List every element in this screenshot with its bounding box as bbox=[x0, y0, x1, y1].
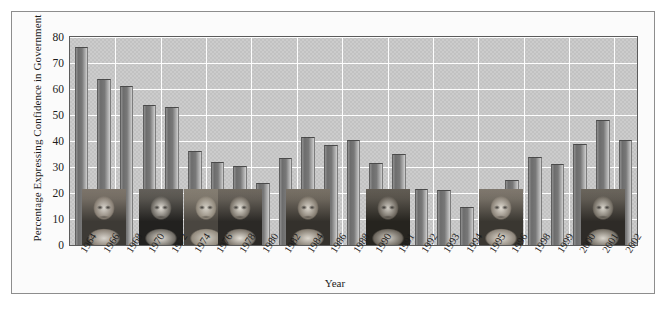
y-axis-tick-label: 20 bbox=[38, 187, 64, 199]
y-axis-tick-label: 60 bbox=[38, 83, 64, 95]
gridline-horizontal bbox=[70, 89, 637, 90]
gridline-vertical bbox=[342, 37, 343, 245]
y-axis-tick-label: 80 bbox=[38, 31, 64, 43]
gridline-vertical bbox=[433, 37, 434, 245]
x-axis-title: Year bbox=[0, 277, 670, 289]
plot-area bbox=[69, 36, 638, 246]
y-axis-tick-label: 50 bbox=[38, 109, 64, 121]
y-axis-tick-label: 0 bbox=[38, 239, 64, 251]
gridline-horizontal bbox=[70, 37, 637, 38]
y-axis-tick-label: 40 bbox=[38, 135, 64, 147]
y-axis-tick-label: 10 bbox=[38, 213, 64, 225]
gridline-vertical bbox=[569, 37, 570, 245]
chart-figure: Percentage Expressing Confidence in Gove… bbox=[0, 0, 670, 317]
bar bbox=[528, 157, 542, 245]
y-axis-tick-label: 30 bbox=[38, 161, 64, 173]
gridline-vertical bbox=[524, 37, 525, 245]
bar bbox=[347, 140, 361, 245]
y-axis-tick-labels: 01020304050607080 bbox=[36, 36, 64, 246]
y-axis-tick-label: 70 bbox=[38, 57, 64, 69]
bar bbox=[551, 164, 565, 245]
gridline-horizontal bbox=[70, 63, 637, 64]
